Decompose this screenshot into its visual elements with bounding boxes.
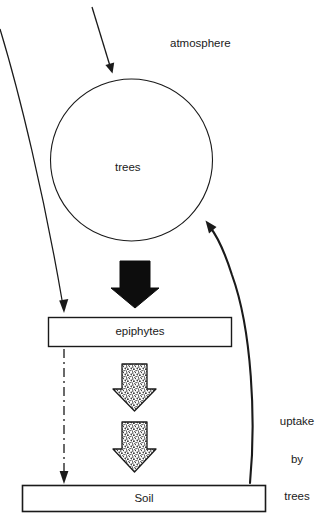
label-uptake-by-trees: uptake by trees bbox=[272, 390, 322, 518]
arrow-epiphytes-to-soil-stippled-upper bbox=[113, 364, 156, 411]
label-uptake-line-3: trees bbox=[272, 490, 322, 503]
arrow-epiphytes-to-soil-dashed bbox=[60, 349, 69, 484]
label-trees: trees bbox=[115, 161, 141, 174]
node-trees bbox=[51, 79, 213, 241]
label-atmosphere: atmosphere bbox=[170, 37, 231, 50]
arrow-epiphytes-to-soil-stippled-lower bbox=[113, 422, 156, 472]
nutrient-cycle-diagram: atmosphere trees epiphytes Soil uptake b… bbox=[0, 0, 325, 518]
label-soil: Soil bbox=[22, 492, 266, 505]
label-epiphytes: epiphytes bbox=[48, 325, 232, 338]
label-uptake-line-2: by bbox=[272, 453, 322, 466]
label-uptake-line-1: uptake bbox=[272, 415, 322, 428]
arrow-soil-to-trees bbox=[206, 221, 253, 484]
arrow-trees-to-epiphytes bbox=[111, 261, 159, 308]
arrow-atmosphere-to-trees bbox=[92, 7, 114, 74]
